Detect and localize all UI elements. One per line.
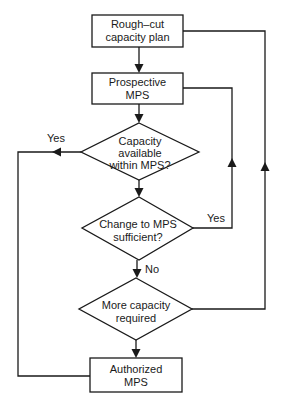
node-label-line: Authorized (110, 363, 163, 375)
node-label-line: within MPS? (108, 159, 170, 171)
node-label-line: Change to MPS (99, 218, 177, 230)
edge-change-check-yes-to-prospective (183, 88, 232, 228)
decision-capacity-available: Capacity available within MPS? (81, 123, 199, 180)
node-label-line: Capacity (119, 135, 162, 147)
arrowhead-down-icon (133, 269, 142, 278)
node-label-line: available (118, 147, 161, 159)
arrowhead-down-icon (132, 349, 141, 358)
arrowhead-up-icon (261, 162, 270, 171)
decision-change-to-mps-sufficient: Change to MPS sufficient? (82, 197, 193, 260)
arrowhead-down-icon (135, 114, 144, 123)
node-label-line: Rough–cut (111, 18, 164, 30)
arrowhead-up-icon (228, 158, 237, 167)
edge-more-capacity-to-roughcut (183, 31, 265, 309)
node-label-line: required (116, 312, 156, 324)
node-authorized-mps: Authorized MPS (90, 358, 182, 392)
node-label-line: MPS (124, 376, 148, 388)
edge-label-yes-right: Yes (207, 212, 225, 224)
flowchart: Rough–cut capacity plan Prospective MPS … (0, 0, 282, 405)
arrowhead-down-icon (135, 64, 144, 73)
node-rough-cut-capacity-plan: Rough–cut capacity plan (92, 15, 183, 47)
edge-label-yes-left: Yes (47, 132, 65, 144)
node-label-line: sufficient? (113, 231, 162, 243)
node-prospective-mps: Prospective MPS (92, 73, 183, 104)
node-label-line: MPS (126, 89, 150, 101)
arrowhead-left-icon (52, 148, 61, 157)
edge-capacity-check-yes-to-authorized (18, 152, 90, 376)
node-label-line: capacity plan (105, 31, 169, 43)
edge-label-no: No (145, 263, 159, 275)
node-label-line: More capacity (102, 299, 171, 311)
decision-more-capacity-required: More capacity required (79, 278, 192, 340)
arrowhead-down-icon (135, 188, 144, 197)
node-label-line: Prospective (109, 76, 166, 88)
